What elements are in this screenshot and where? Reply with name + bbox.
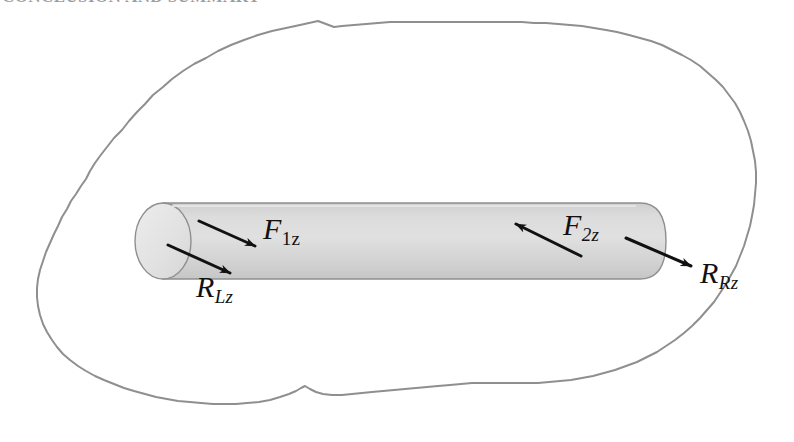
- figure-container: CONCLUSION AND SUMMARY: [0, 0, 794, 442]
- free-body-diagram: [0, 0, 794, 442]
- force-label-F1z-subscript: 1z: [282, 228, 300, 249]
- reaction-label-RLz-base: R: [196, 270, 214, 303]
- cylinder-left-cap: [135, 203, 191, 279]
- reaction-label-RLz: RLz: [196, 272, 233, 306]
- force-label-F2z-base: F: [563, 208, 581, 241]
- reaction-label-RRz: RRz: [700, 258, 738, 292]
- force-label-F2z: F2z: [563, 210, 599, 244]
- force-label-F1z: F1z: [263, 214, 300, 248]
- force-label-F1z-base: F: [263, 212, 281, 245]
- reaction-label-RLz-subscript: Lz: [215, 286, 233, 307]
- reaction-label-RRz-base: R: [700, 256, 718, 289]
- reaction-label-RRz-subscript: Rz: [719, 272, 738, 293]
- force-label-F2z-subscript: 2z: [582, 224, 599, 245]
